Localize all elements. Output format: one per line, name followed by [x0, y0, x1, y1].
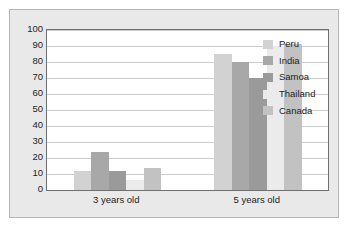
- y-axis-tick-label: 90: [13, 40, 43, 49]
- legend-item-canada: Canada: [263, 102, 335, 119]
- y-axis-tick-label: 50: [13, 104, 43, 113]
- x-axis-tick-label: 5 years old: [212, 194, 302, 206]
- legend-label: India: [279, 56, 300, 66]
- y-axis-tick-label: 80: [13, 56, 43, 65]
- y-axis-tick-label: 10: [13, 168, 43, 177]
- legend-item-india: India: [263, 53, 335, 70]
- legend-swatch-peru: [263, 40, 273, 49]
- y-axis-tick-label: 40: [13, 120, 43, 129]
- legend-label: Thailand: [279, 89, 315, 99]
- x-axis-tick-label: 3 years old: [71, 194, 161, 206]
- legend-item-thailand: Thailand: [263, 86, 335, 103]
- legend-swatch-canada: [263, 106, 273, 115]
- y-axis: 1009080706050403020100: [10, 29, 43, 191]
- chart-panel: 1009080706050403020100 3 years old5 year…: [9, 9, 339, 218]
- chart-legend: PeruIndiaSamoaThailandCanada: [263, 36, 335, 119]
- legend-label: Samoa: [279, 72, 309, 82]
- y-axis-tick-label: 100: [13, 24, 43, 33]
- legend-swatch-india: [263, 56, 273, 65]
- legend-label: Canada: [279, 106, 312, 116]
- legend-swatch-samoa: [263, 73, 273, 82]
- bar-india-2: [232, 62, 250, 190]
- y-axis-tick-label: 70: [13, 72, 43, 81]
- legend-item-samoa: Samoa: [263, 69, 335, 86]
- bar-peru-2: [214, 54, 232, 190]
- y-axis-tick-label: 60: [13, 88, 43, 97]
- y-axis-tick-label: 30: [13, 136, 43, 145]
- y-axis-tick-label: 0: [13, 184, 43, 193]
- x-axis: 3 years old5 years old: [46, 194, 329, 210]
- legend-label: Peru: [279, 39, 299, 49]
- legend-swatch-thailand: [263, 90, 273, 99]
- legend-item-peru: Peru: [263, 36, 335, 53]
- y-axis-tick-label: 20: [13, 152, 43, 161]
